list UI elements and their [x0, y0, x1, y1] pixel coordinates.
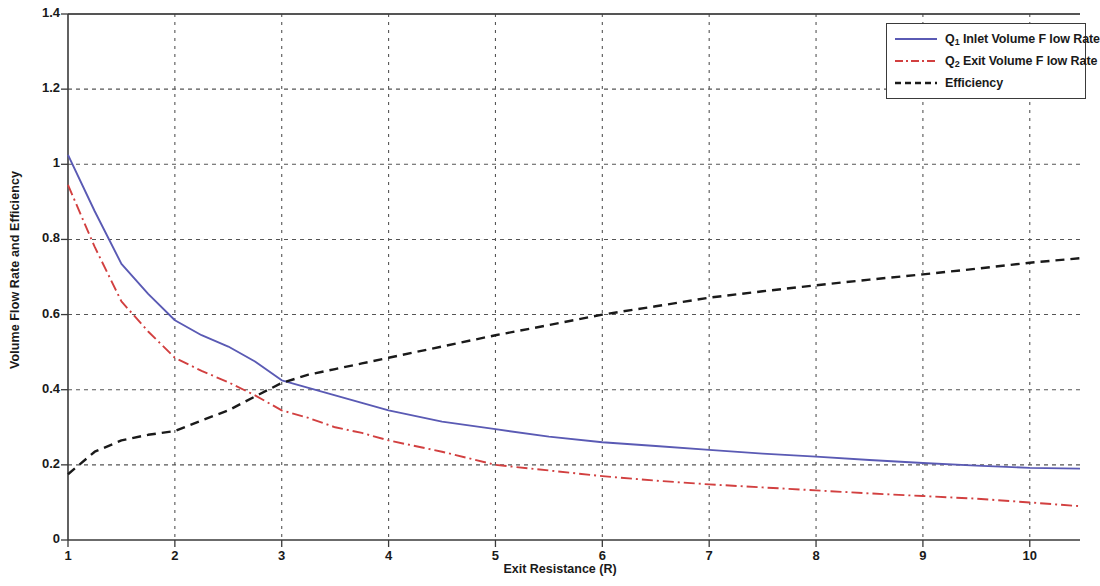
legend-item[interactable]: Q2 Exit Volume F low Rate	[887, 50, 1085, 72]
x-tick-label: 4	[369, 548, 409, 563]
y-tick-label: 0.2	[22, 456, 60, 471]
legend-line-swatch	[894, 33, 938, 45]
x-tick-label: 8	[796, 548, 836, 563]
legend-line-swatch	[894, 77, 938, 89]
legend-item[interactable]: Q1 Inlet Volume F low Rate	[887, 28, 1085, 50]
y-tick-label: 1.2	[22, 80, 60, 95]
series-line-2	[68, 258, 1080, 474]
legend-line-swatch	[894, 55, 938, 67]
tick-marks	[61, 14, 1030, 547]
y-tick-label: 0.4	[22, 381, 60, 396]
x-axis-label: Exit Resistance (R)	[0, 562, 1080, 576]
legend-label: Efficiency	[945, 76, 1003, 90]
x-tick-label: 1	[48, 548, 88, 563]
x-tick-label: 3	[262, 548, 302, 563]
x-tick-label: 2	[155, 548, 195, 563]
x-tick-label: 9	[903, 548, 943, 563]
series-line-1	[68, 185, 1080, 506]
legend-item[interactable]: Efficiency	[887, 72, 1085, 94]
legend-label: Q1 Inlet Volume F low Rate	[945, 32, 1100, 47]
x-tick-label: 10	[1010, 548, 1050, 563]
series-line-0	[68, 155, 1080, 469]
y-tick-label: 0.8	[22, 230, 60, 245]
y-tick-label: 1.4	[22, 5, 60, 20]
chart-legend: Q1 Inlet Volume F low RateQ2 Exit Volume…	[886, 23, 1086, 99]
x-tick-label: 5	[475, 548, 515, 563]
x-tick-label: 6	[582, 548, 622, 563]
y-tick-label: 0.6	[22, 306, 60, 321]
y-tick-label: 0	[22, 531, 60, 546]
y-tick-label: 1	[22, 155, 60, 170]
legend-label: Q2 Exit Volume F low Rate	[945, 54, 1097, 69]
x-tick-label: 7	[689, 548, 729, 563]
